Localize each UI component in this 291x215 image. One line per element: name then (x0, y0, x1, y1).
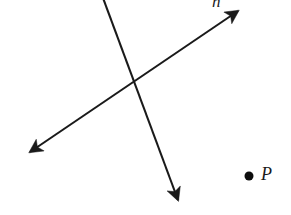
point-p-marker (245, 172, 254, 181)
geometry-figure-canvas: n P (0, 0, 291, 215)
line-steep (103, 0, 178, 200)
line-label-n: n (212, 0, 221, 10)
point-label-p: P (261, 165, 272, 183)
geometry-diagram (0, 0, 291, 215)
